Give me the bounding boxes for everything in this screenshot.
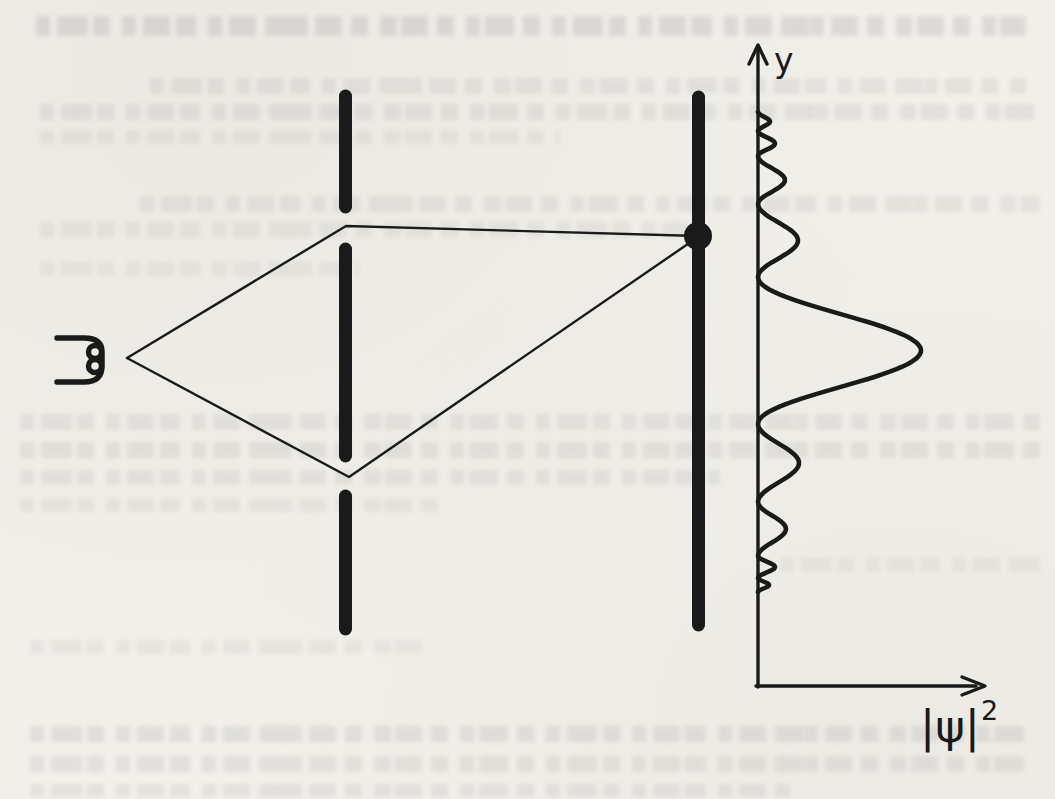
source-coil-loop-1	[89, 346, 102, 359]
psi-squared-curve	[758, 112, 921, 592]
psi-exponent-text: 2	[981, 695, 998, 726]
double-slit-figure	[0, 0, 1055, 799]
y-axis-label: y	[774, 44, 794, 77]
detection-dot	[684, 222, 712, 250]
ray-through-bottom-slit	[127, 237, 698, 477]
psi-magnitude-text: |ψ|	[920, 700, 980, 753]
intensity-axis-label: |ψ|2	[920, 697, 998, 749]
ray-through-top-slit	[127, 226, 698, 358]
scanned-page: y |ψ|2	[0, 0, 1055, 799]
source-coil-loop-2	[89, 360, 102, 373]
